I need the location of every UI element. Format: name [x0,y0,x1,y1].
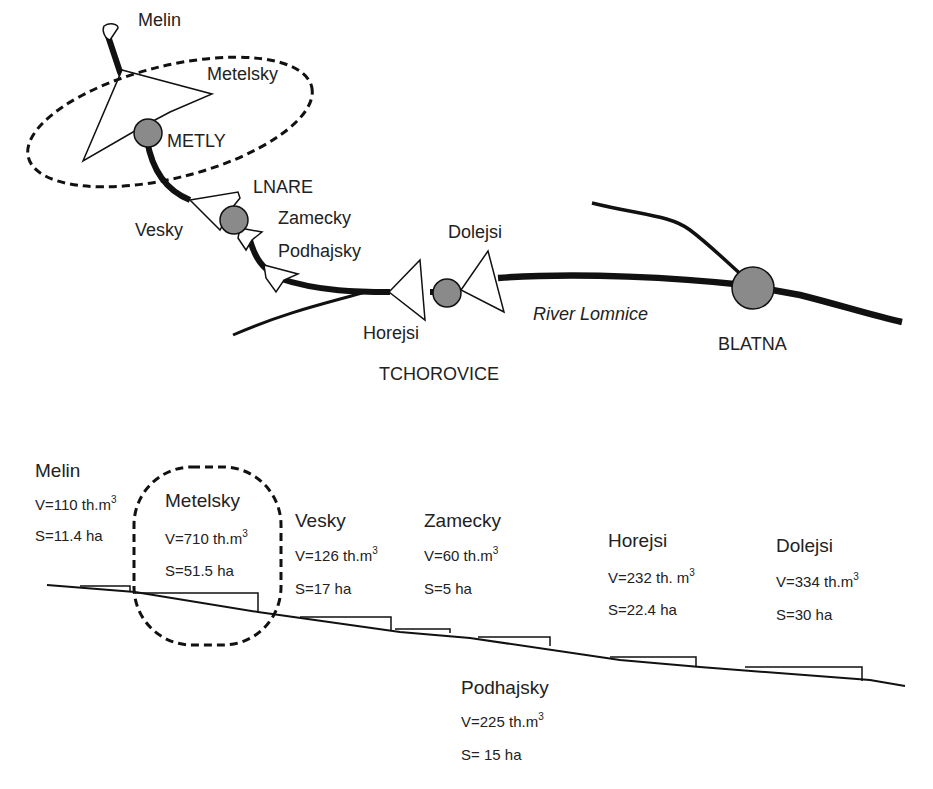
profile-area-metelsky: S=51.5 ha [165,562,234,579]
profile-area-melin: S=11.4 ha [35,527,103,544]
pond-podhajsky-shape [264,265,298,292]
terrain-line [47,585,905,686]
pond-melin-shape [103,24,118,40]
profile-name-zamecky: Zamecky [424,510,502,531]
profile-area-zamecky: S=5 ha [424,580,473,597]
profile-name-vesky: Vesky [295,510,346,531]
profile-name-metelsky: Metelsky [165,490,240,511]
profile-area-dolejsi: S=30 ha [776,606,833,623]
profile-name-horejsi: Horejsi [608,530,667,551]
profile-name-dolejsi: Dolejsi [776,535,833,556]
profile-volume-zamecky: V=60 th.m3 [424,545,499,564]
profile-volume-metelsky: V=710 th.m3 [165,528,248,547]
map-label-zamecky: Zamecky [278,208,351,228]
town-marker-tchorovice [433,279,461,307]
map-label-blatna: BLATNA [718,334,787,354]
profile-volume-melin: V=110 th.m3 [35,494,117,513]
tributary-blatna [592,203,745,278]
profile-volume-dolejsi: V=334 th.m3 [776,571,859,590]
profile-name-melin: Melin [35,460,80,481]
pond-cascade-diagram: Melin Metelsky METLY LNARE Vesky Zamecky… [0,0,933,789]
longitudinal-profile: Melin V=110 th.m3 S=11.4 ha Metelsky V=7… [35,460,905,763]
town-marker-blatna [732,267,774,309]
town-marker-lnare [220,206,248,234]
pond-horejsi-shape [389,260,425,320]
profile-area-horejsi: S=22.4 ha [608,601,677,618]
map-label-tchorovice: TCHOROVICE [379,364,499,384]
profile-volume-podhajsky: V=225 th.m3 [461,711,544,730]
map-label-river: River Lomnice [533,304,648,324]
map-label-dolejsi: Dolejsi [448,222,502,242]
map-label-podhajsky: Podhajsky [278,241,361,261]
map-label-vesky: Vesky [135,220,183,240]
tributary-stream [233,292,365,335]
profile-area-vesky: S=17 ha [295,580,352,597]
pond-dolejsi-shape [461,251,504,312]
profile-volume-horejsi: V=232 th. m3 [608,567,695,586]
map-label-lnare: LNARE [253,177,313,197]
map-label-metelsky: Metelsky [207,64,278,84]
town-marker-metly [134,119,162,147]
profile-area-podhajsky: S= 15 ha [461,746,522,763]
map-label-horejsi: Horejsi [363,323,419,343]
map-label-melin: Melin [138,10,181,30]
profile-volume-vesky: V=126 th.m3 [295,545,378,564]
map-label-metly: METLY [167,131,226,151]
map: Melin Metelsky METLY LNARE Vesky Zamecky… [15,10,902,384]
profile-name-podhajsky: Podhajsky [461,677,549,698]
